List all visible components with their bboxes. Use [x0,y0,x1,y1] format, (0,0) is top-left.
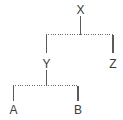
tree-diagram: Y Z X A B [0,0,123,120]
node-label-z: Z [109,57,116,71]
node-label-b: B [74,103,82,117]
node-label-x: X [76,3,84,17]
node-label-a: A [9,103,17,117]
tree-diagram-svg: Y Z X A B [0,0,123,120]
node-label-y: Y [42,57,50,71]
